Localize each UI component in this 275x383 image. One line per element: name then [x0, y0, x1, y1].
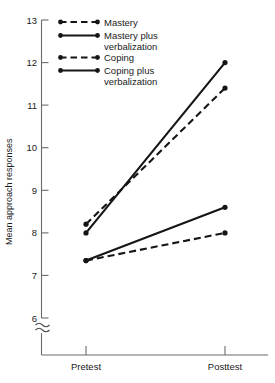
legend-label-coping: Coping — [104, 52, 134, 63]
chart-figure: 13 12 11 10 9 8 7 6 Mean approach respon… — [0, 0, 275, 383]
legend-label-mastery: Mastery — [104, 17, 138, 28]
legend-item-mastery: Mastery — [58, 17, 138, 28]
chart-legend: Mastery Mastery plus verbalization Copin… — [58, 17, 158, 88]
legend-label-coping-plus-verbalization-line1: Coping plus — [104, 65, 154, 76]
axis-break-icon — [36, 323, 50, 332]
y-tick-label-11: 11 — [27, 100, 37, 111]
y-tick-label-10: 10 — [26, 142, 37, 153]
legend-item-coping-plus-verbalization: Coping plus verbalization — [58, 65, 157, 87]
x-tick-label-pretest: Pretest — [71, 361, 101, 372]
line-chart-svg: 13 12 11 10 9 8 7 6 Mean approach respon… — [0, 0, 275, 383]
legend-item-coping: Coping — [58, 52, 134, 63]
x-tick-label-posttest: Posttest — [208, 361, 243, 372]
y-tick-marks — [42, 20, 49, 318]
y-tick-label-12: 12 — [26, 57, 37, 68]
series-mastery — [83, 86, 227, 227]
y-tick-label-6: 6 — [32, 313, 37, 324]
y-tick-label-13: 13 — [26, 15, 37, 26]
y-tick-label-9: 9 — [32, 185, 37, 196]
legend-label-mastery-plus-verbalization-line2: verbalization — [104, 41, 157, 52]
series-coping-plus-verbalization — [83, 205, 227, 264]
legend-label-coping-plus-verbalization-line2: verbalization — [104, 76, 157, 87]
y-tick-label-7: 7 — [32, 270, 37, 281]
y-axis-title: Mean approach responses — [4, 138, 14, 245]
legend-item-mastery-plus-verbalization: Mastery plus verbalization — [58, 30, 158, 52]
series-coping — [83, 230, 227, 263]
y-tick-label-8: 8 — [32, 227, 37, 238]
legend-label-mastery-plus-verbalization-line1: Mastery plus — [104, 30, 158, 41]
x-tick-marks — [86, 346, 225, 355]
